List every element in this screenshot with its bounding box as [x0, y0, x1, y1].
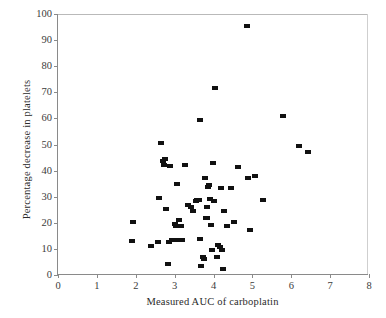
y-tick-label: 30	[42, 191, 53, 202]
data-point	[280, 114, 286, 118]
data-point	[211, 199, 217, 203]
data-point	[218, 186, 224, 190]
data-point	[182, 163, 188, 167]
x-tick-mark	[330, 274, 331, 278]
data-point	[155, 240, 161, 244]
data-point	[169, 238, 175, 242]
y-tick-label: 60	[42, 113, 53, 124]
x-tick-mark	[175, 274, 176, 278]
data-point	[162, 157, 168, 161]
x-tick-label: 5	[250, 281, 255, 292]
x-tick-mark	[291, 274, 292, 278]
data-point	[244, 24, 250, 28]
data-point	[245, 176, 251, 180]
data-point	[260, 198, 266, 202]
data-point	[130, 220, 136, 224]
y-tick-mark	[54, 14, 58, 15]
x-tick-mark	[369, 274, 370, 278]
x-axis-title: Measured AUC of carboplatin	[57, 296, 368, 307]
y-tick-label: 40	[42, 165, 53, 176]
x-tick-mark	[58, 274, 59, 278]
data-point	[220, 267, 226, 271]
data-point	[198, 264, 204, 268]
data-point	[221, 209, 227, 213]
y-tick-mark	[54, 223, 58, 224]
data-point	[214, 255, 220, 259]
data-point	[161, 163, 167, 167]
data-point	[219, 248, 225, 252]
x-tick-label: 0	[55, 281, 60, 292]
x-tick-mark	[252, 274, 253, 278]
data-point	[204, 205, 210, 209]
data-point	[252, 174, 258, 178]
data-point	[201, 257, 207, 261]
data-point	[209, 248, 215, 252]
y-tick-label: 50	[42, 139, 53, 150]
data-point	[305, 150, 311, 154]
data-point	[129, 239, 135, 243]
y-tick-label: 20	[42, 218, 53, 229]
x-tick-label: 8	[366, 281, 371, 292]
x-tick-label: 6	[289, 281, 294, 292]
data-point	[206, 183, 212, 187]
data-point	[179, 238, 185, 242]
y-tick-mark	[54, 66, 58, 67]
data-point	[165, 262, 171, 266]
y-tick-label: 70	[42, 87, 53, 98]
data-point	[178, 224, 184, 228]
x-tick-label: 3	[172, 281, 177, 292]
x-tick-label: 4	[211, 281, 216, 292]
y-tick-mark	[54, 118, 58, 119]
data-point	[296, 144, 302, 148]
y-tick-label: 80	[42, 61, 53, 72]
data-point	[167, 164, 173, 168]
data-point	[158, 141, 164, 145]
data-point	[212, 86, 218, 90]
x-tick-label: 7	[328, 281, 333, 292]
x-tick-label: 1	[94, 281, 99, 292]
y-tick-mark	[54, 145, 58, 146]
data-point	[224, 224, 230, 228]
data-point	[196, 198, 202, 202]
data-point	[190, 209, 196, 213]
y-tick-mark	[54, 197, 58, 198]
y-tick-label: 10	[42, 244, 53, 255]
data-point	[163, 207, 169, 211]
data-point	[174, 182, 180, 186]
scatter-chart-figure: 0102030405060708090100 012345678 Measure…	[0, 0, 386, 318]
data-point	[210, 161, 216, 165]
y-tick-label: 100	[36, 9, 52, 20]
x-tick-label: 2	[133, 281, 138, 292]
data-point	[197, 118, 203, 122]
y-tick-mark	[54, 249, 58, 250]
x-tick-mark	[97, 274, 98, 278]
y-tick-label: 0	[47, 270, 52, 281]
y-axis-title: Percentage decrease in platelets	[21, 50, 32, 250]
data-point	[197, 237, 203, 241]
data-point	[208, 223, 214, 227]
data-point	[202, 176, 208, 180]
y-tick-mark	[54, 171, 58, 172]
x-tick-mark	[136, 274, 137, 278]
data-point	[176, 218, 182, 222]
data-point	[228, 186, 234, 190]
y-tick-mark	[54, 40, 58, 41]
y-tick-mark	[54, 92, 58, 93]
y-tick-label: 90	[42, 35, 53, 46]
data-point	[148, 244, 154, 248]
data-point	[231, 220, 237, 224]
data-point	[204, 216, 210, 220]
data-point	[247, 228, 253, 232]
plot-area: 0102030405060708090100 012345678	[57, 14, 368, 275]
data-point	[156, 196, 162, 200]
x-tick-mark	[214, 274, 215, 278]
data-point	[235, 165, 241, 169]
